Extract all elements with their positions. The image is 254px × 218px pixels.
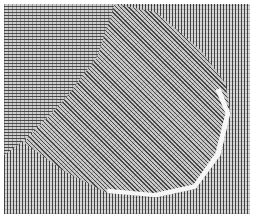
texture-canvas: [0, 0, 254, 218]
